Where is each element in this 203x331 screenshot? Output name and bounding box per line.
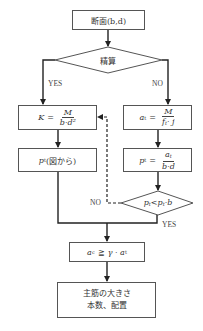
yes-label-ratio: YES [162,220,176,229]
pt-chart-box: pt (図から) [18,148,97,172]
decision-main-text: 精算 [100,57,116,66]
k-eq: = [47,113,54,122]
pt-eq: = [149,156,156,165]
result-line2: 本数、配置 [87,300,127,312]
k-formula-box: K = M b·d² [18,105,97,130]
at-lhs-sub: t [144,115,146,121]
k-lhs: K [38,113,44,122]
pt-num-sub: t [170,153,172,159]
check-lhs-sub: c [92,249,95,255]
k-fraction: M b·d² [59,108,77,127]
check-rhs: γ · a [108,248,125,257]
no-label-main: NO [152,79,163,88]
pt-denominator: b·d [161,162,176,171]
at-fraction: M ft· j [161,107,176,128]
result-box: 主筋の大きさ 本数、配置 [57,282,156,318]
start-section-box: 断面(b,d) [72,10,145,30]
no-label-ratio: NO [90,198,101,207]
k-numerator: M [62,108,74,118]
pt-fraction: at b·d [161,150,176,171]
pt-chart-suffix: (図から) [46,155,76,166]
yes-label-main: YES [48,79,62,88]
at-numerator: M [162,107,174,117]
start-label: 断面(b,d) [91,15,126,26]
pt-lhs-sub: t [144,157,146,163]
decision-ratio-label: pt<pt·b [131,198,185,207]
ratio-op: < [151,198,158,207]
arrow-no-loop-dashed [98,117,121,203]
check-op: ≧ [98,248,105,257]
check-formula-box: ac ≧ γ · at [69,242,145,262]
ratio-rest: ·b [165,198,173,207]
at-eq: = [149,113,156,122]
decision-main-label: 精算 [93,55,123,66]
at-den-j: · j [167,117,175,126]
check-rhs-sub: t [125,249,127,255]
k-denominator: b·d² [59,118,77,127]
at-denominator: ft· j [161,117,176,128]
pt-formula-box: pt = at b·d [123,148,192,172]
pt-numerator: at [163,150,174,162]
result-line1: 主筋の大きさ [83,288,131,300]
at-formula-box: at = M ft· j [123,105,192,130]
